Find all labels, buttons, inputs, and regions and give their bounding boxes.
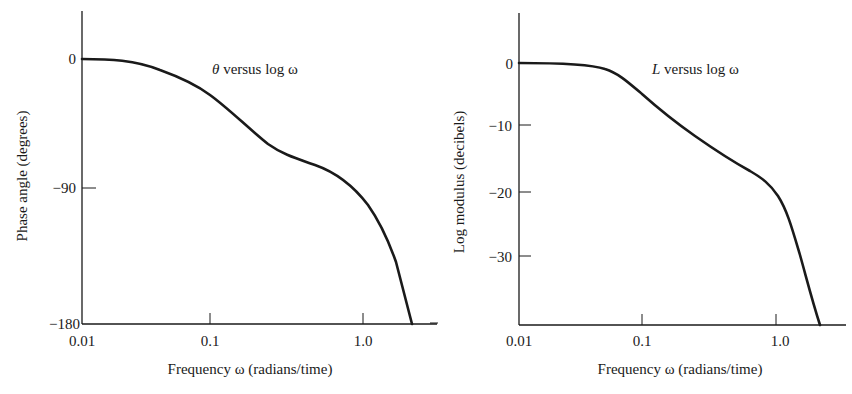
modulus-y-axis-title: Log modulus (decibels) [451,111,468,253]
modulus-y-label-minus10: −10 [489,118,512,134]
L-symbol: L [651,61,660,77]
modulus-x-label-1.0: 1.0 [771,333,790,349]
phase-x-label-1.0: 1.0 [354,333,373,349]
phase-x-label-0.1: 0.1 [201,333,220,349]
phase-annotation: θ versus log ω [212,61,298,77]
modulus-x-label-0.01: 0.01 [506,333,532,349]
phase-chart: 0 −90 −180 0.01 0.1 1.0 Frequency ω (rad… [14,11,437,378]
phase-y-label-0: 0 [69,51,77,67]
modulus-annotation: L versus log ω [651,61,739,77]
modulus-y-label-0: 0 [506,56,514,72]
phase-x-label-0.01: 0.01 [69,333,95,349]
phase-y-axis-title: Phase angle (degrees) [14,111,31,242]
modulus-x-axis-title: Frequency ω (radians/time) [598,361,763,378]
phase-y-label-minus90: −90 [53,180,76,196]
phase-y-label-minus180: −180 [49,316,80,332]
modulus-y-label-minus20: −20 [489,185,512,201]
bode-plots: 0 −90 −180 0.01 0.1 1.0 Frequency ω (rad… [0,0,852,394]
modulus-annotation-rest: versus log ω [660,61,739,77]
modulus-chart: 0 −10 −20 −30 0.01 0.1 1.0 Frequency ω (… [430,13,846,378]
phase-x-axis-title: Frequency ω (radians/time) [168,361,333,378]
modulus-y-label-minus30: −30 [489,249,512,265]
modulus-x-label-0.1: 0.1 [633,333,652,349]
phase-curve [82,59,412,324]
modulus-curve [519,63,820,325]
phase-annotation-rest: versus log ω [219,61,298,77]
